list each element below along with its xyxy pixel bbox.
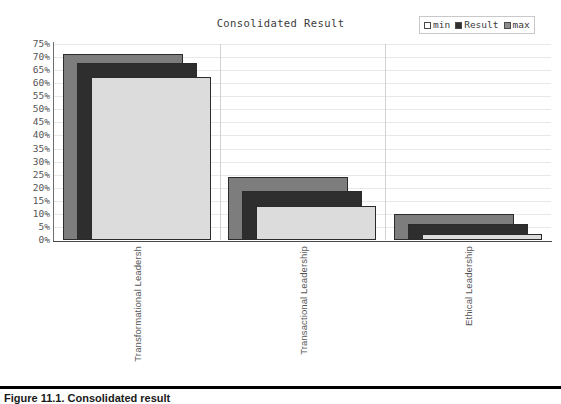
legend-item-result[interactable]: Result [455,20,498,30]
y-axis-tick-25: 25% [8,170,50,180]
legend-label-max: max [513,20,530,30]
legend-item-max[interactable]: max [504,20,530,30]
y-axis-tick-0: 0% [8,235,50,245]
y-axis-tick-50: 50% [8,104,50,114]
legend-swatch-result [455,22,462,29]
y-axis-tick-65: 65% [8,65,50,75]
y-axis-tick-5: 5% [8,222,50,232]
legend-label-result: Result [464,20,498,30]
y-axis-tick-30: 30% [8,157,50,167]
y-axis-tick-75: 75% [8,39,50,49]
y-axis-tick-55: 55% [8,91,50,101]
y-axis-tick-15: 15% [8,196,50,206]
caption-divider [0,386,561,389]
x-axis-category-label: Ethical Leadership [463,246,474,326]
legend-swatch-min [424,22,431,29]
bar-group [54,44,220,240]
y-axis-tick-20: 20% [8,183,50,193]
y-axis-tick-60: 60% [8,78,50,88]
y-axis-tick-35: 35% [8,144,50,154]
y-axis-tick-10: 10% [8,209,50,219]
bar-max-0[interactable] [91,77,211,240]
legend-label-min: min [433,20,450,30]
figure-caption: Figure 11.1. Consolidated result [4,392,170,404]
y-axis-tick-labels: 75%70%65%60%55%50%45%40%35%30%25%20%15%1… [4,44,50,240]
legend-item-min[interactable]: min [424,20,450,30]
y-axis-tick-45: 45% [8,117,50,127]
x-axis-category-label: Transformational Leadersh [132,246,143,362]
bar-group [385,44,551,240]
bar-max-2[interactable] [422,234,542,240]
x-axis-line [53,241,552,242]
chart-container: Consolidated Result min Result max 75%70… [0,0,561,384]
x-axis-category-label: Transactional Leadership [298,246,309,355]
legend-swatch-max [504,22,511,29]
bar-max-1[interactable] [256,206,376,240]
bar-group [220,44,386,240]
y-axis-tick-40: 40% [8,130,50,140]
plot-area [54,44,551,240]
chart-legend: min Result max [419,16,535,34]
y-axis-tick-70: 70% [8,52,50,62]
